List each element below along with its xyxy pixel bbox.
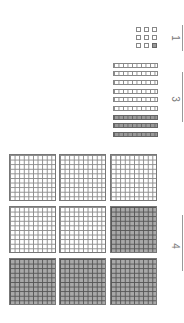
ten-rod-shaded xyxy=(113,123,158,128)
unit-cube xyxy=(144,43,149,48)
unit-cube-shaded xyxy=(152,43,157,48)
ten-rod xyxy=(113,63,158,68)
hundred-square xyxy=(59,206,106,253)
ones-answer: 1 xyxy=(169,32,181,44)
tens-answer: 3 xyxy=(169,93,181,105)
hundreds-answer-line xyxy=(182,215,183,271)
unit-cube xyxy=(144,35,149,40)
unit-cube xyxy=(144,27,149,32)
hundred-square-shaded xyxy=(110,206,157,253)
ten-rod xyxy=(113,97,158,102)
hundred-square xyxy=(59,154,106,201)
unit-cube xyxy=(136,27,141,32)
unit-cube xyxy=(136,35,141,40)
unit-cube xyxy=(152,35,157,40)
ten-rod-shaded xyxy=(113,132,158,137)
unit-cube xyxy=(136,43,141,48)
ten-rod xyxy=(113,80,158,85)
hundred-square xyxy=(9,154,56,201)
hundred-square-shaded xyxy=(110,258,157,305)
ten-rod xyxy=(113,71,158,76)
tens-answer-line xyxy=(182,72,183,122)
ten-rod-shaded xyxy=(113,115,158,120)
hundred-square-shaded xyxy=(9,258,56,305)
hundreds-answer: 4 xyxy=(169,240,181,252)
hundred-square xyxy=(9,206,56,253)
ten-rod xyxy=(113,106,158,111)
ten-rod xyxy=(113,89,158,94)
hundred-square-shaded xyxy=(59,258,106,305)
unit-cube xyxy=(152,27,157,32)
ones-answer-line xyxy=(182,25,183,51)
hundred-square xyxy=(110,154,157,201)
